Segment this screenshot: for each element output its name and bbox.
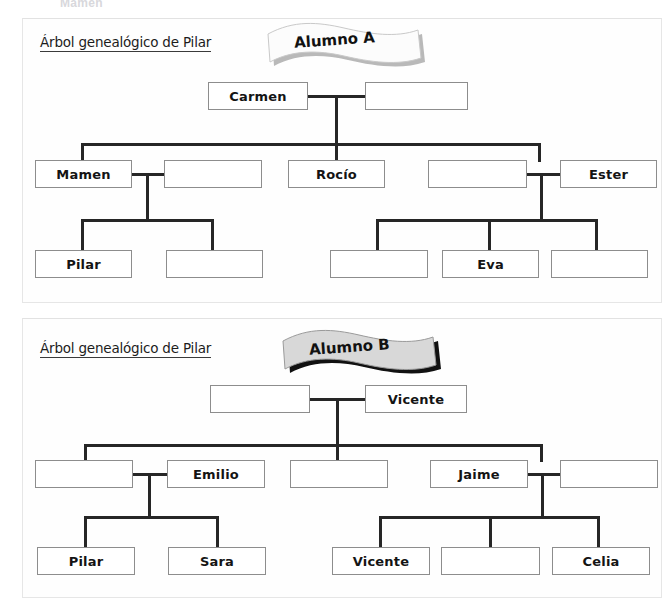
node-tree-a-g2-ester[interactable]: Ester xyxy=(560,160,657,188)
connector-a-couple-right-drop xyxy=(540,173,543,221)
node-tree-a-g1-carmen[interactable]: Carmen xyxy=(208,82,308,110)
node-label: Carmen xyxy=(229,90,287,103)
connector-a-g3-riser-l1 xyxy=(81,219,84,251)
connector-a-g3-riser-r2 xyxy=(488,219,491,251)
connector-b-g2-riser-3 xyxy=(540,444,543,462)
connector-b-couple-right-drop xyxy=(541,473,544,518)
connector-b-couple-left-drop xyxy=(148,473,151,518)
node-label: Ester xyxy=(589,168,628,181)
connector-b-g3-bus-left xyxy=(84,516,219,519)
banner-alumno-b: Alumno B xyxy=(273,325,441,373)
connector-a-g3-riser-l2 xyxy=(211,219,214,251)
node-label: Pilar xyxy=(66,258,101,271)
node-tree-b-g2-blank-2[interactable] xyxy=(290,460,388,488)
node-tree-a-g2-blank-1[interactable] xyxy=(164,160,262,188)
node-tree-a-g3-blank-2[interactable] xyxy=(330,250,428,278)
connector-b-g3-riser-l2 xyxy=(216,516,219,547)
connector-a-g2-riser-3 xyxy=(538,143,541,162)
node-tree-a-g3-pilar[interactable]: Pilar xyxy=(35,250,132,278)
tree-a-title: Árbol genealógico de Pilar xyxy=(40,34,211,52)
node-tree-a-g3-blank-1[interactable] xyxy=(166,250,263,278)
connector-b-g3-riser-l1 xyxy=(84,516,87,547)
node-tree-b-g2-blank-3[interactable] xyxy=(560,460,658,488)
node-label: Vicente xyxy=(388,393,445,406)
connector-a-g1-drop xyxy=(335,95,338,145)
node-tree-b-g2-blank-1[interactable] xyxy=(35,460,133,488)
connector-b-couple-right xyxy=(526,473,562,476)
connector-b-g3-riser-r3 xyxy=(597,516,600,547)
node-label: Eva xyxy=(477,258,504,271)
node-tree-b-g3-celia[interactable]: Celia xyxy=(552,547,650,575)
connector-a-g3-bus-left xyxy=(81,219,214,222)
page-root: Mamen Árbol genealógico de Pilar Alumno … xyxy=(0,0,669,607)
node-label: Jaime xyxy=(458,468,499,481)
node-label: Rocío xyxy=(316,168,357,181)
node-tree-a-g3-blank-3[interactable] xyxy=(551,250,648,278)
connector-a-g3-riser-r3 xyxy=(595,219,598,251)
node-tree-a-g3-eva[interactable]: Eva xyxy=(442,250,539,278)
connector-a-g3-riser-r1 xyxy=(376,219,379,251)
node-tree-a-g2-blank-2[interactable] xyxy=(428,160,527,188)
node-tree-a-g2-rocio[interactable]: Rocío xyxy=(288,160,385,188)
node-label: Mamen xyxy=(56,168,110,181)
node-tree-b-g3-vicente[interactable]: Vicente xyxy=(332,547,430,575)
node-label: Vicente xyxy=(353,555,410,568)
node-label: Pilar xyxy=(69,555,104,568)
node-label: Celia xyxy=(582,555,619,568)
connector-b-g1-drop xyxy=(336,398,339,446)
node-tree-b-g2-emilio[interactable]: Emilio xyxy=(167,460,265,488)
scan-top-partial-text: Mamen xyxy=(60,0,103,10)
node-tree-b-g1-vicente[interactable]: Vicente xyxy=(365,385,467,413)
connector-b-g3-riser-r2 xyxy=(489,516,492,547)
connector-a-couple-right xyxy=(525,173,562,176)
connector-b-g2-bus xyxy=(84,444,543,447)
node-label: Emilio xyxy=(193,468,239,481)
connector-a-couple-left-drop xyxy=(146,173,149,221)
node-tree-a-g1-blank[interactable] xyxy=(365,82,468,110)
node-tree-a-g2-mamen[interactable]: Mamen xyxy=(35,160,132,188)
node-tree-b-g3-sara[interactable]: Sara xyxy=(168,547,266,575)
node-tree-b-g3-pilar[interactable]: Pilar xyxy=(37,547,135,575)
node-tree-b-g3-blank[interactable] xyxy=(441,547,540,575)
connector-a-g2-bus xyxy=(81,143,541,146)
node-tree-b-g1-blank[interactable] xyxy=(210,385,310,413)
connector-a-g3-bus-right xyxy=(376,219,598,222)
banner-alumno-a: Alumno A xyxy=(258,18,426,66)
tree-b-title: Árbol genealógico de Pilar xyxy=(40,340,211,358)
node-tree-b-g2-jaime[interactable]: Jaime xyxy=(430,460,528,488)
node-label: Sara xyxy=(200,555,234,568)
connector-b-g3-riser-r1 xyxy=(379,516,382,547)
